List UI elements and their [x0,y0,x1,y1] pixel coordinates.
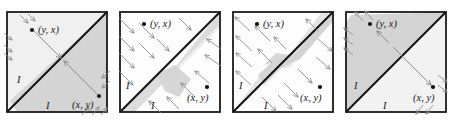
label-point-lower: (x, y) [300,92,322,104]
label-region-lower: I [263,100,268,111]
label-point-lower: (x, y) [72,99,94,111]
label-point-upper: (y, x) [263,18,284,30]
four-panel-figure: (y, x) (x, y) I I [0,0,453,124]
label-region-upper: I [16,74,21,85]
panel-1: (y, x) (x, y) I I [4,9,110,115]
label-region-upper: I [125,80,130,91]
point-lower [205,85,209,89]
point-lower [97,94,101,98]
panel-2: (y, x) (x, y) I I [117,9,223,115]
label-point-lower: (x, y) [187,92,209,104]
panel-3: (y, x) (x, y) I I [230,9,336,115]
point-upper [30,28,34,32]
point-upper [255,22,259,26]
label-region-upper: I [353,80,358,91]
label-point-lower: (x, y) [413,92,435,104]
point-upper [368,22,372,26]
label-point-upper: (y, x) [150,18,171,30]
point-lower [431,85,435,89]
label-region-lower: I [150,100,155,111]
label-region-lower: I [382,100,387,111]
label-point-upper: (y, x) [38,24,59,36]
label-point-upper: (y, x) [376,18,397,30]
label-region-upper: I [238,80,243,91]
point-upper [142,22,146,26]
label-region-lower: I [45,100,50,111]
point-lower [318,85,322,89]
panel-4: (y, x) (x, y) I I [343,9,449,115]
